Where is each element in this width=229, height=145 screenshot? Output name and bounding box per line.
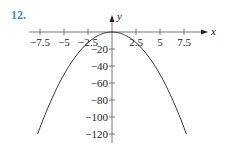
x-tick-label: 5 (157, 36, 163, 48)
x-tick-label: 2.5 (129, 36, 143, 48)
y-tick-label: −80 (91, 94, 109, 106)
y-tick-label: −40 (91, 60, 109, 72)
y-tick-label: −20 (91, 43, 109, 55)
x-tick-label: −7.5 (30, 36, 50, 48)
y-tick-label: −120 (85, 128, 108, 140)
y-axis-arrow-icon (110, 15, 115, 22)
ticks: −7.5−5−2.52.557.5−20−40−60−80−100−120 (30, 29, 191, 140)
y-axis-label: y (116, 10, 122, 22)
y-tick-label: −100 (85, 111, 108, 123)
parabola-chart: xy −7.5−5−2.52.557.5−20−40−60−80−100−120 (0, 0, 229, 145)
x-tick-label: 7.5 (177, 36, 191, 48)
axes: xy (29, 10, 216, 143)
x-tick-label: −5 (58, 36, 70, 48)
x-axis-label: x (210, 25, 216, 37)
x-axis-arrow-icon (201, 30, 208, 35)
y-tick-label: −60 (91, 77, 109, 89)
